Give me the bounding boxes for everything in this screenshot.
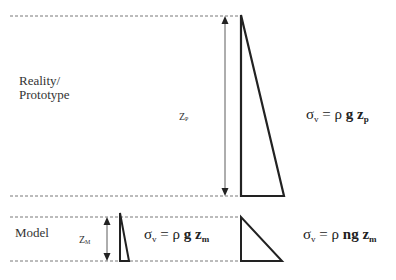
model-ng-stress-triangle [241,217,282,261]
prototype-height-arrow [222,16,229,196]
zm-subscript: M [85,239,90,245]
model-height-label: ZM [79,234,90,245]
equals-rho: = ρ [319,106,346,122]
prototype-stress-equation: σv = ρ g zp [306,106,369,124]
prototype-label-line1: Reality/ [19,74,70,88]
gravity-term: g [346,106,354,122]
gravity-term: g [184,226,192,242]
depth-term: z [195,226,202,242]
equals-rho: = ρ [316,226,343,242]
prototype-stress-triangle [241,15,284,196]
depth-subscript: p [364,114,369,124]
sigma-symbol: σ [144,226,152,242]
sigma-symbol: σ [306,106,314,122]
prototype-label-line2: Prototype [19,88,70,102]
sigma-symbol: σ [303,226,311,242]
depth-term: z [357,106,364,122]
model-1g-stress-equation: σv = ρ g zm [144,226,209,244]
model-label: Model [15,226,49,240]
model-height-arrow [104,217,111,261]
prototype-label: Reality/ Prototype [19,74,70,102]
equals-rho: = ρ [157,226,184,242]
depth-subscript: m [369,234,377,244]
depth-subscript: m [202,234,210,244]
gravity-term: ng [343,226,359,242]
zp-subscript: P [185,116,188,122]
model-ng-stress-equation: σv = ρ ng zm [303,226,377,244]
prototype-height-label: ZP [179,111,188,122]
model-1g-stress-triangle [120,213,129,261]
